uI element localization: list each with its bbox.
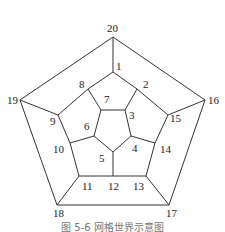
node-label-17: 17	[166, 207, 178, 219]
node-label-2: 2	[143, 78, 149, 90]
node-label-20: 20	[107, 22, 119, 34]
figure-caption: 图 5-6 网格世界示意图	[0, 219, 225, 232]
node-label-14: 14	[160, 143, 172, 155]
node-label-7: 7	[104, 93, 110, 105]
node-label-12: 12	[108, 180, 119, 192]
edge	[146, 176, 169, 205]
node-label-5: 5	[99, 152, 105, 164]
edge	[125, 89, 137, 110]
node-label-10: 10	[53, 143, 65, 155]
node-label-16: 16	[208, 94, 220, 106]
inner-pentagon	[94, 110, 131, 152]
node-label-18: 18	[53, 207, 65, 219]
node-label-9: 9	[50, 115, 56, 127]
node-label-4: 4	[132, 142, 138, 154]
node-label-11: 11	[82, 180, 93, 192]
node-label-15: 15	[170, 112, 182, 124]
edge	[88, 89, 101, 110]
node-label-19: 19	[7, 94, 19, 106]
dodecahedron-graph: 1234567891011121314151617181920	[0, 0, 225, 232]
node-label-13: 13	[133, 180, 145, 192]
edge	[57, 176, 79, 205]
edge	[70, 136, 94, 143]
node-label-8: 8	[79, 78, 85, 90]
node-label-6: 6	[84, 120, 90, 132]
node-label-1: 1	[116, 60, 122, 72]
edge	[20, 100, 58, 115]
node-label-3: 3	[129, 109, 135, 121]
